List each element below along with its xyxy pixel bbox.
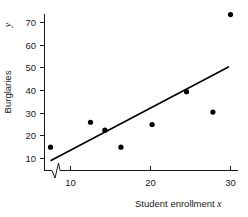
x-tick-label-20: 20 [145, 177, 156, 188]
plot-canvas: 70 60 50 40 30 20 10 10 20 30 Student en… [0, 0, 248, 217]
x-axis-ticks [71, 166, 231, 171]
y-tick-label-60: 60 [25, 40, 36, 51]
x-tick-label-10: 10 [65, 177, 76, 188]
axes-group [45, 14, 239, 178]
data-point [118, 145, 123, 150]
x-axis-label: Student enrollment [135, 198, 215, 209]
data-point [228, 12, 233, 17]
y-axis-tick-labels: 70 60 50 40 30 20 10 [25, 17, 36, 164]
x-axis-break-zigzag [52, 163, 60, 178]
y-axis-label: Burglaries [2, 70, 13, 113]
y-tick-label-70: 70 [25, 17, 36, 28]
regression-line-group [51, 67, 229, 161]
data-point [48, 145, 53, 150]
data-point [150, 122, 155, 127]
data-point [102, 128, 107, 133]
data-point [210, 109, 215, 114]
x-axis-variable: x [216, 198, 222, 209]
x-tick-label-30: 30 [225, 177, 236, 188]
x-axis-tick-labels: 10 20 30 [65, 177, 236, 188]
data-point [88, 120, 93, 125]
y-axis-ticks [40, 23, 45, 159]
fitted-regression-line [51, 67, 229, 161]
y-tick-label-20: 20 [25, 130, 36, 141]
data-point [184, 89, 189, 94]
scatter-plot-figure: 70 60 50 40 30 20 10 10 20 30 Student en… [0, 0, 248, 217]
y-tick-label-40: 40 [25, 85, 36, 96]
data-points-group [48, 12, 233, 150]
y-tick-label-10: 10 [25, 153, 36, 164]
y-tick-label-30: 30 [25, 108, 36, 119]
y-axis-variable: y [2, 22, 13, 28]
y-tick-label-50: 50 [25, 62, 36, 73]
